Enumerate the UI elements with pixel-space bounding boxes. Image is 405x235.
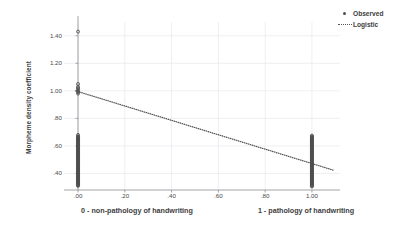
legend-item-logistic: Logistic <box>337 19 403 29</box>
logistic-line-icon <box>337 20 353 28</box>
x-tick-label: .80 <box>248 192 282 199</box>
legend-label-logistic: Logistic <box>353 21 378 28</box>
axis-lines <box>64 16 340 193</box>
observed-data-points <box>77 30 314 188</box>
x-tick-label: .60 <box>201 192 235 199</box>
chart-legend: Observed Logistic <box>337 8 403 30</box>
logistic-curve <box>76 91 333 170</box>
x-tick-label: .40 <box>155 192 189 199</box>
legend-item-observed: Observed <box>337 8 403 18</box>
logistic-regression-chart: Morpheme density coefficient 1.40 1.20 1… <box>0 0 405 235</box>
plot-canvas <box>64 22 340 190</box>
observed-marker-icon <box>337 9 353 17</box>
y-tick-label: 1.00 <box>36 87 62 94</box>
x-tick-label: .20 <box>108 192 142 199</box>
y-tick-label: .60 <box>36 142 62 149</box>
y-tick-label: .40 <box>36 169 62 176</box>
x-tick-label: .00 <box>61 192 95 199</box>
gridlines <box>64 22 340 190</box>
x-caption-non-pathology: 0 - non-pathology of handwriting <box>52 206 222 215</box>
y-axis-title: Morpheme density coefficient <box>25 28 32 188</box>
x-caption-pathology: 1 - pathology of handwriting <box>222 206 390 215</box>
y-tick-label: 1.20 <box>36 59 62 66</box>
plot-area <box>64 22 340 190</box>
legend-label-observed: Observed <box>353 10 383 17</box>
y-tick-label: 1.40 <box>36 32 62 39</box>
x-tick-label: 1.00 <box>295 192 329 199</box>
y-tick-label: .80 <box>36 114 62 121</box>
